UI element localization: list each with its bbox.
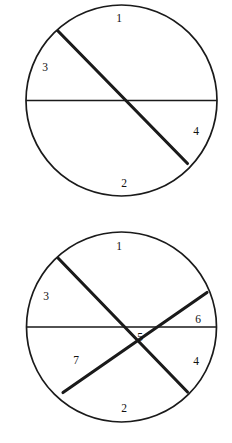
circle-top-region-label-3: 3 <box>42 61 48 73</box>
circle-bottom-region-label-1: 1 <box>116 240 122 252</box>
circle-bottom-region-label-2: 2 <box>121 402 127 414</box>
circle-top-region-label-1: 1 <box>116 12 122 24</box>
circle-bottom-region-label-6: 6 <box>195 313 201 325</box>
circle-bottom-region-label-4: 4 <box>193 355 199 367</box>
four-region-circle: 1342 <box>26 5 217 196</box>
circle-top-region-label-2: 2 <box>121 177 127 189</box>
seven-region-circle: 1365742 <box>27 232 217 422</box>
circle-bottom-region-label-5: 5 <box>137 331 143 343</box>
circle-bottom-region-label-3: 3 <box>43 290 49 302</box>
circle-top-region-label-4: 4 <box>193 125 199 137</box>
circle-bottom-region-label-7: 7 <box>73 354 79 366</box>
figure-stage: 13421365742 <box>0 0 232 443</box>
circle-diagram-figure: 13421365742 <box>0 0 232 443</box>
